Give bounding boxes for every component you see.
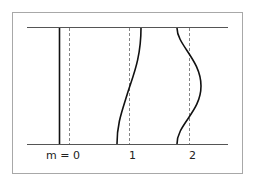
m0-label: m = 0 <box>46 149 80 162</box>
mode-diagram: m = 0 1 2 <box>0 0 254 183</box>
m2-label: 2 <box>189 149 196 162</box>
m2-mode-curve <box>177 28 201 144</box>
m1-label: 1 <box>129 149 136 162</box>
m1-mode-curve <box>117 28 141 144</box>
